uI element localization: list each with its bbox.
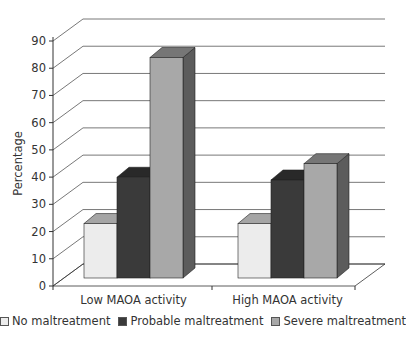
svg-text:90: 90 (31, 34, 46, 48)
legend-swatch (271, 317, 280, 326)
svg-text:Low MAOA activity: Low MAOA activity (80, 293, 187, 307)
legend-label: Severe maltreatment (283, 314, 406, 328)
legend-item-no-maltreatment: No maltreatment (0, 314, 110, 328)
svg-text:40: 40 (31, 170, 46, 184)
bar-chart: 0102030405060708090PercentageLow MAOA ac… (0, 0, 406, 310)
svg-text:30: 30 (31, 197, 46, 211)
legend-label: Probable maltreatment (130, 314, 263, 328)
chart-legend: No maltreatment Probable maltreatment Se… (0, 314, 406, 328)
bar (304, 154, 349, 278)
bar (150, 48, 195, 279)
legend-swatch (0, 317, 9, 326)
svg-text:60: 60 (31, 116, 46, 130)
legend-label: No maltreatment (12, 314, 110, 328)
svg-text:Percentage: Percentage (11, 131, 25, 196)
svg-text:20: 20 (31, 225, 46, 239)
svg-text:0: 0 (39, 279, 46, 293)
svg-text:70: 70 (31, 88, 46, 102)
svg-text:50: 50 (31, 143, 46, 157)
legend-swatch (118, 317, 127, 326)
legend-item-probable-maltreatment: Probable maltreatment (118, 314, 263, 328)
svg-text:80: 80 (31, 61, 46, 75)
legend-item-severe-maltreatment: Severe maltreatment (271, 314, 406, 328)
svg-text:10: 10 (31, 252, 46, 266)
svg-text:High MAOA activity: High MAOA activity (232, 293, 343, 307)
